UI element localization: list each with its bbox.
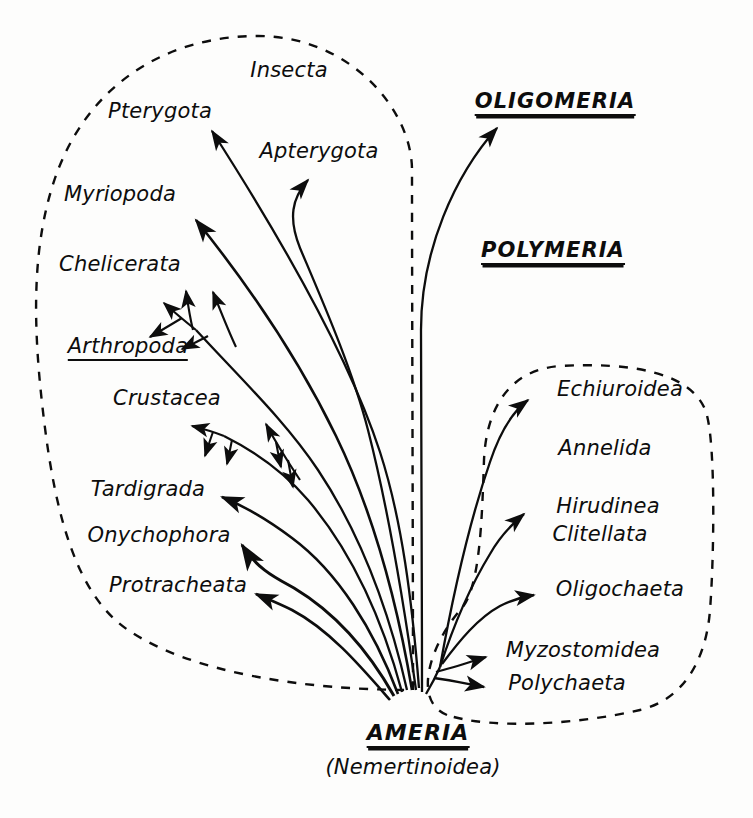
label-oligochaeta: Oligochaeta xyxy=(556,578,684,600)
label-chelicerata: Chelicerata xyxy=(59,253,181,275)
subbranch-crustacea-4 xyxy=(266,424,300,480)
branch-chelicerata-stem xyxy=(196,330,407,690)
label-ameria: AMERIA xyxy=(367,720,470,748)
label-apterygota: Apterygota xyxy=(259,140,378,162)
label-nemertinoidea: (Nemertinoidea) xyxy=(325,756,500,778)
label-oligomeria-wrap: OLIGOMERIA xyxy=(475,90,636,112)
label-myriopoda: Myriopoda xyxy=(64,183,176,205)
label-oligomeria: OLIGOMERIA xyxy=(475,89,636,116)
label-annelida: Annelida xyxy=(558,437,651,459)
label-onychophora: Onychophora xyxy=(87,524,230,546)
branch-crustacea-stem xyxy=(224,436,402,692)
label-crustacea: Crustacea xyxy=(113,387,221,409)
label-tardigrada: Tardigrada xyxy=(91,478,205,500)
branch-onychophora xyxy=(242,545,394,696)
label-ameria-wrap: AMERIA xyxy=(367,721,470,744)
subbranch-crustacea-2 xyxy=(205,432,213,456)
label-myzostomidea: Myzostomidea xyxy=(506,639,660,661)
label-arthropoda: Arthropoda xyxy=(68,334,188,361)
label-pterygota: Pterygota xyxy=(108,100,212,122)
label-polymeria-wrap: POLYMERIA xyxy=(481,239,625,261)
label-arthropoda-wrap: Arthropoda xyxy=(68,335,188,357)
label-hirudinea: Hirudinea xyxy=(556,495,660,517)
label-insecta: Insecta xyxy=(250,59,327,81)
label-protracheata: Protracheata xyxy=(109,574,247,596)
label-polymeria: POLYMERIA xyxy=(481,238,625,265)
phylogeny-figure: Insecta Pterygota Apterygota Myriopoda C… xyxy=(0,0,753,818)
label-polychaeta: Polychaeta xyxy=(508,672,626,694)
subbranch-crustacea-3 xyxy=(227,440,232,464)
label-clitellata: Clitellata xyxy=(552,523,647,545)
subbranch-chelicerata-5 xyxy=(213,292,236,347)
subbranch-crustacea-1 xyxy=(192,426,224,436)
branch-polychaeta xyxy=(434,678,484,687)
branch-oligomeria xyxy=(421,128,497,692)
label-echiuroidea: Echiuroidea xyxy=(557,378,683,400)
